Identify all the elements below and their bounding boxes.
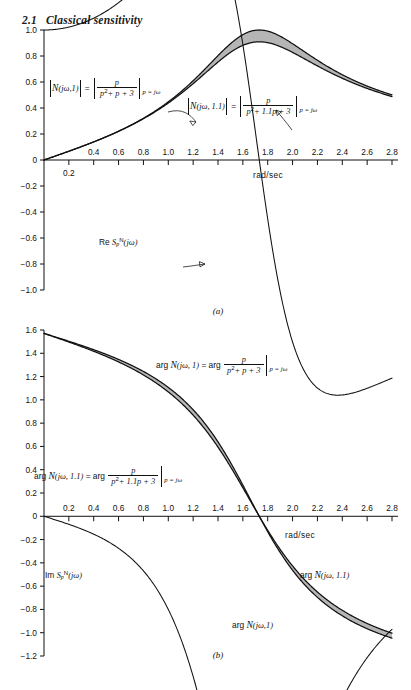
svg-text:1.0: 1.0 — [25, 395, 37, 405]
svg-text:0.6: 0.6 — [25, 441, 37, 451]
svg-text:−0.4: −0.4 — [21, 207, 38, 217]
anno-real-sensitivity: Re SpN(jω) — [99, 237, 137, 248]
svg-text:(b): (b) — [213, 650, 224, 660]
svg-text:2.4: 2.4 — [337, 503, 349, 513]
anno-curve-arg-N11: arg N(jω, 1.1) — [300, 570, 349, 581]
anno-arg-N11: arg N(jω, 1.1) = arg pp2+ 1.1p + 3p = jω — [34, 466, 182, 487]
svg-text:1.2: 1.2 — [25, 372, 37, 382]
svg-text:2.0: 2.0 — [287, 147, 299, 157]
svg-text:1.0: 1.0 — [163, 147, 175, 157]
svg-text:−0.4: −0.4 — [21, 558, 38, 568]
svg-text:−1.2: −1.2 — [21, 651, 38, 661]
svg-text:0.8: 0.8 — [138, 147, 150, 157]
svg-text:1.0: 1.0 — [25, 25, 37, 35]
svg-text:1.6: 1.6 — [237, 147, 249, 157]
svg-text:2.6: 2.6 — [361, 503, 373, 513]
svg-text:2.8: 2.8 — [386, 147, 398, 157]
svg-text:2.4: 2.4 — [337, 147, 349, 157]
svg-text:−1.0: −1.0 — [21, 628, 38, 638]
svg-text:0.4: 0.4 — [88, 147, 100, 157]
svg-text:0.8: 0.8 — [25, 418, 37, 428]
panel-b-plot: −1.2−1.0−0.8−0.6−0.4−0.200.20.40.60.81.0… — [0, 326, 411, 676]
svg-text:0.2: 0.2 — [63, 168, 75, 178]
svg-text:2.6: 2.6 — [361, 147, 373, 157]
svg-text:−0.6: −0.6 — [21, 581, 38, 591]
svg-text:rad/sec: rad/sec — [253, 170, 283, 180]
svg-text:0.8: 0.8 — [138, 503, 150, 513]
panel-a: −1.0−0.8−0.6−0.4−0.200.20.40.60.81.00.20… — [0, 26, 411, 326]
svg-text:1.8: 1.8 — [262, 503, 274, 513]
anno-magnitude-N1: N(jω,1) = pp2+ p + 3p = jω — [48, 78, 160, 99]
svg-text:1.0: 1.0 — [163, 503, 175, 513]
anno-arg-N1: arg N(jω, 1) = arg pp2+ p + 3p = jω — [156, 355, 287, 376]
svg-text:−0.6: −0.6 — [21, 233, 38, 243]
svg-text:0.8: 0.8 — [25, 51, 37, 61]
svg-text:0.6: 0.6 — [113, 503, 125, 513]
anno-magnitude-N11: N(jω, 1.1) = pp2+ 1.1p + 3p = jω — [186, 96, 317, 117]
figure-caption — [22, 681, 392, 690]
svg-text:1.4: 1.4 — [212, 503, 224, 513]
svg-text:1.6: 1.6 — [25, 325, 37, 335]
anno-imag-sensitivity: Im SpN(jω) — [45, 570, 82, 581]
svg-text:−1.0: −1.0 — [21, 285, 38, 295]
svg-text:0.4: 0.4 — [25, 103, 37, 113]
panel-a-plot: −1.0−0.8−0.6−0.4−0.200.20.40.60.81.00.20… — [0, 26, 411, 326]
svg-text:1.6: 1.6 — [237, 503, 249, 513]
svg-text:1.2: 1.2 — [187, 503, 199, 513]
svg-text:−0.8: −0.8 — [21, 604, 38, 614]
svg-text:0.2: 0.2 — [25, 488, 37, 498]
svg-text:(a): (a) — [213, 306, 224, 316]
section-heading: 2.1Classical sensitivity — [22, 14, 143, 26]
svg-text:1.4: 1.4 — [212, 147, 224, 157]
svg-text:0: 0 — [32, 155, 37, 165]
svg-text:0.2: 0.2 — [25, 129, 37, 139]
svg-text:2.2: 2.2 — [312, 503, 324, 513]
svg-text:rad/sec: rad/sec — [285, 530, 315, 540]
svg-text:−0.2: −0.2 — [21, 181, 38, 191]
svg-text:1.4: 1.4 — [25, 348, 37, 358]
svg-text:0.6: 0.6 — [113, 147, 125, 157]
section-title: Classical sensitivity — [46, 14, 143, 26]
svg-text:1.2: 1.2 — [187, 147, 199, 157]
svg-text:0.4: 0.4 — [88, 503, 100, 513]
svg-text:0.2: 0.2 — [63, 503, 75, 513]
anno-curve-arg-N1: arg N(jω,1) — [232, 620, 273, 631]
svg-text:1.8: 1.8 — [262, 147, 274, 157]
svg-text:2.0: 2.0 — [287, 503, 299, 513]
svg-text:2.2: 2.2 — [312, 147, 324, 157]
svg-text:0: 0 — [32, 511, 37, 521]
svg-text:0.6: 0.6 — [25, 77, 37, 87]
svg-text:−0.2: −0.2 — [21, 535, 38, 545]
svg-text:2.8: 2.8 — [386, 503, 398, 513]
svg-text:−0.8: −0.8 — [21, 259, 38, 269]
panel-b: −1.2−1.0−0.8−0.6−0.4−0.200.20.40.60.81.0… — [0, 326, 411, 676]
